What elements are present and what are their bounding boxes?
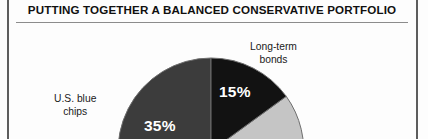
pie-chart-figure: PUTTING TOGETHER A BALANCED CONSERVATIVE… [0, 0, 428, 139]
pie-callout-long-term-bonds: Long-term bonds [250, 41, 297, 66]
pie-svg [0, 0, 428, 139]
pie-callout-long-term-bonds-line1: Long-term [250, 41, 297, 54]
pie-callout-us-blue-chips-line1: U.S. blue [54, 93, 96, 106]
pie-callout-long-term-bonds-line2: bonds [250, 54, 297, 67]
pie-callout-us-blue-chips-line2: chips [54, 106, 96, 119]
pie-value-long-term-bonds: 15% [219, 83, 251, 101]
pie-graphic: 15% 35% Long-term bonds U.S. blue chips [0, 0, 428, 139]
pie-callout-us-blue-chips: U.S. blue chips [54, 93, 96, 118]
pie-value-us-blue-chips: 35% [144, 117, 176, 135]
